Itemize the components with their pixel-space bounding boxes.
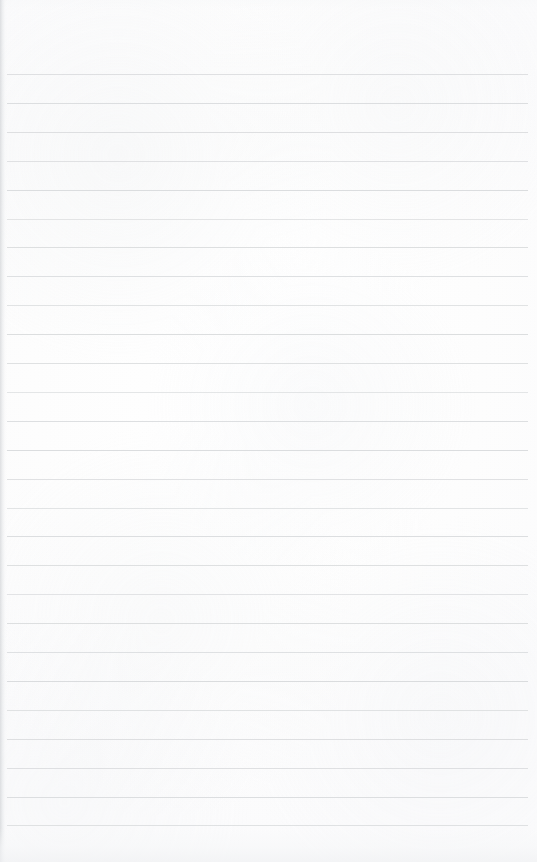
ruled-lines-layer — [0, 0, 537, 862]
ruled-line — [7, 536, 528, 537]
ruled-line — [7, 363, 528, 364]
ruled-line — [7, 305, 528, 306]
ruled-line — [7, 132, 528, 133]
ruled-line — [7, 161, 528, 162]
ruled-line — [7, 565, 528, 566]
ruled-line — [7, 219, 528, 220]
ruled-line — [7, 710, 528, 711]
ruled-line — [7, 508, 528, 509]
ruled-line — [7, 623, 528, 624]
ruled-line — [7, 652, 528, 653]
ruled-line — [7, 276, 528, 277]
ruled-line — [7, 479, 528, 480]
notebook-page — [0, 0, 537, 862]
ruled-line — [7, 594, 528, 595]
ruled-line — [7, 334, 528, 335]
ruled-line — [7, 739, 528, 740]
ruled-line — [7, 190, 528, 191]
ruled-line — [7, 825, 528, 826]
ruled-line — [7, 450, 528, 451]
ruled-line — [7, 768, 528, 769]
ruled-line — [7, 247, 528, 248]
ruled-line — [7, 797, 528, 798]
ruled-line — [7, 392, 528, 393]
ruled-line — [7, 103, 528, 104]
ruled-line — [7, 421, 528, 422]
ruled-line — [7, 74, 528, 75]
ruled-line — [7, 681, 528, 682]
